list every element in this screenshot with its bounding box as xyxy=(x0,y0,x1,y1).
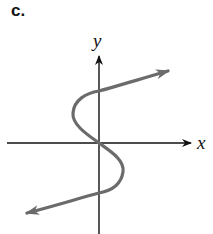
curve-upper-branch xyxy=(73,71,168,143)
x-axis-label: x xyxy=(196,132,206,153)
graph: x y xyxy=(0,0,213,234)
y-axis-label: y xyxy=(91,30,102,51)
curve-lower-branch xyxy=(27,143,123,213)
